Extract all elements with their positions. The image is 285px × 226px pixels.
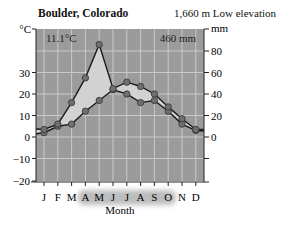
- temperature-marker: [124, 91, 130, 97]
- precipitation-marker: [68, 99, 74, 105]
- mean-temperature-label: 11.1°C: [46, 32, 77, 44]
- left-tick-label: 0: [25, 131, 31, 143]
- month-label: F: [55, 191, 61, 203]
- right-tick-label: 0: [211, 131, 217, 143]
- month-label: D: [192, 191, 200, 203]
- precipitation-marker: [96, 41, 102, 47]
- month-label: O: [164, 191, 172, 203]
- precipitation-marker: [55, 121, 61, 127]
- precipitation-marker: [179, 116, 185, 122]
- month-label: S: [151, 191, 157, 203]
- left-tick-label: 10: [19, 110, 31, 122]
- month-label: J: [125, 191, 130, 203]
- left-tick-label: −10: [13, 153, 31, 165]
- right-tick-label: 20: [211, 110, 223, 122]
- temperature-marker: [151, 97, 157, 103]
- right-tick-label: 40: [211, 88, 223, 100]
- month-label: J: [111, 191, 116, 203]
- right-axis-unit: mm: [211, 22, 229, 34]
- precipitation-marker: [151, 91, 157, 97]
- left-tick-label: 20: [19, 88, 31, 100]
- precipitation-marker: [137, 83, 143, 89]
- temperature-marker: [96, 97, 102, 103]
- x-axis-label: Month: [105, 204, 135, 216]
- month-label: A: [81, 191, 89, 203]
- left-axis-unit: °C: [19, 23, 31, 35]
- month-label: M: [94, 191, 104, 203]
- month-label: N: [178, 191, 186, 203]
- precipitation-marker: [82, 75, 88, 81]
- month-label: M: [67, 191, 77, 203]
- month-label: J: [42, 191, 47, 203]
- left-tick-label: 30: [19, 67, 31, 79]
- temperature-marker: [137, 99, 143, 105]
- right-tick-label: 80: [211, 45, 223, 57]
- precipitation-marker: [193, 126, 199, 132]
- precipitation-marker: [124, 79, 130, 85]
- climate-chart: °C3020100−10−20mm806040200JFMAMJJASONDMo…: [0, 0, 285, 226]
- temperature-marker: [68, 121, 74, 127]
- right-tick-label: 60: [211, 67, 223, 79]
- precipitation-marker: [41, 126, 47, 132]
- precipitation-marker: [165, 104, 171, 110]
- precipitation-marker: [110, 85, 116, 91]
- left-tick-label: −20: [13, 175, 31, 187]
- annual-precipitation-label: 460 mm: [160, 32, 197, 44]
- temperature-marker: [82, 108, 88, 114]
- month-label: A: [137, 191, 145, 203]
